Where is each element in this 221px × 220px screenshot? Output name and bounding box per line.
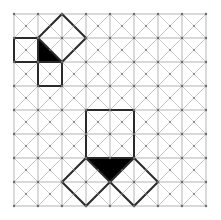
- cell-center-dot: [49, 97, 51, 99]
- grid-vertex-dot: [13, 181, 15, 183]
- cell-center-dot: [25, 73, 27, 75]
- grid-vertex-dot: [133, 205, 135, 207]
- grid-vertex-dot: [157, 181, 159, 183]
- grid-vertex-dot: [157, 157, 159, 159]
- grid-vertex-dot: [133, 85, 135, 87]
- cell-center-dot: [121, 97, 123, 99]
- grid-vertex-dot: [181, 181, 183, 183]
- cell-center-dot: [73, 73, 75, 75]
- cell-center-dot: [25, 193, 27, 195]
- cell-center-dot: [121, 121, 123, 123]
- cell-center-dot: [49, 73, 51, 75]
- grid-vertex-dot: [109, 181, 111, 183]
- cell-center-dot: [121, 193, 123, 195]
- cell-center-dot: [121, 73, 123, 75]
- cell-center-dot: [145, 169, 147, 171]
- grid-vertex-dot: [205, 109, 207, 111]
- grid-vertex-dot: [61, 13, 63, 15]
- cell-center-dot: [49, 169, 51, 171]
- cell-center-dot: [49, 145, 51, 147]
- grid-diagram: [0, 0, 221, 220]
- grid-vertex-dot: [61, 109, 63, 111]
- grid-vertex-dot: [205, 61, 207, 63]
- cell-center-dot: [73, 121, 75, 123]
- cell-center-dot: [97, 169, 99, 171]
- grid-vertex-dot: [109, 157, 111, 159]
- grid-vertex-dot: [181, 157, 183, 159]
- grid-vertex-dot: [133, 13, 135, 15]
- grid-vertex-dot: [85, 205, 87, 207]
- grid-vertex-dot: [85, 157, 87, 159]
- grid-vertex-dot: [85, 61, 87, 63]
- grid-vertex-dot: [181, 133, 183, 135]
- cell-center-dot: [73, 97, 75, 99]
- grid-vertex-dot: [109, 109, 111, 111]
- cell-center-dot: [121, 145, 123, 147]
- cell-center-dot: [169, 169, 171, 171]
- grid-vertex-dot: [37, 109, 39, 111]
- cell-center-dot: [73, 169, 75, 171]
- cell-center-dot: [169, 25, 171, 27]
- cell-center-dot: [49, 193, 51, 195]
- cell-center-dot: [193, 49, 195, 51]
- grid-vertex-dot: [37, 205, 39, 207]
- grid-vertex-dot: [181, 109, 183, 111]
- cell-center-dot: [193, 25, 195, 27]
- grid-vertex-dot: [61, 181, 63, 183]
- grid-vertex-dot: [133, 37, 135, 39]
- grid-vertex-dot: [13, 13, 15, 15]
- grid-vertex-dot: [13, 157, 15, 159]
- cell-center-dot: [193, 145, 195, 147]
- cell-center-dot: [169, 121, 171, 123]
- grid-vertex-dot: [157, 133, 159, 135]
- cell-center-dot: [145, 145, 147, 147]
- cell-center-dot: [97, 121, 99, 123]
- grid-vertex-dot: [205, 181, 207, 183]
- grid-vertex-dot: [37, 37, 39, 39]
- grid-vertex-dot: [61, 157, 63, 159]
- grid-vertex-dot: [157, 109, 159, 111]
- cell-center-dot: [169, 49, 171, 51]
- grid-vertex-dot: [109, 37, 111, 39]
- cell-center-dot: [73, 49, 75, 51]
- grid-vertex-dot: [85, 181, 87, 183]
- grid-vertex-dot: [85, 85, 87, 87]
- grid-vertex-dot: [109, 13, 111, 15]
- grid-vertex-dot: [205, 205, 207, 207]
- cell-center-dot: [25, 49, 27, 51]
- cell-center-dot: [49, 25, 51, 27]
- grid-vertex-dot: [181, 85, 183, 87]
- cell-center-dot: [121, 169, 123, 171]
- cell-center-dot: [169, 97, 171, 99]
- grid-vertex-dot: [37, 181, 39, 183]
- grid-vertex-dot: [13, 109, 15, 111]
- grid-vertex-dot: [157, 85, 159, 87]
- cell-center-dot: [145, 97, 147, 99]
- cell-center-dot: [121, 25, 123, 27]
- grid-vertex-dot: [37, 61, 39, 63]
- cell-center-dot: [97, 193, 99, 195]
- grid-vertex-dot: [109, 133, 111, 135]
- grid-vertex-dot: [37, 13, 39, 15]
- grid-vertex-dot: [13, 37, 15, 39]
- bottom-black-triangle: [86, 158, 134, 182]
- cell-center-dot: [145, 121, 147, 123]
- cell-center-dot: [25, 97, 27, 99]
- cell-center-dot: [73, 25, 75, 27]
- cell-center-dot: [25, 169, 27, 171]
- cell-center-dot: [193, 193, 195, 195]
- cell-center-dot: [193, 73, 195, 75]
- grid-vertex-dot: [205, 157, 207, 159]
- grid-vertex-dot: [157, 13, 159, 15]
- grid-vertex-dot: [109, 61, 111, 63]
- grid-vertex-dot: [181, 13, 183, 15]
- grid-vertex-dot: [37, 85, 39, 87]
- grid-vertex-dot: [37, 133, 39, 135]
- cell-center-dot: [73, 193, 75, 195]
- grid-vertex-dot: [13, 205, 15, 207]
- grid-vertex-dot: [157, 205, 159, 207]
- grid-vertex-dot: [133, 61, 135, 63]
- grid-vertex-dot: [85, 133, 87, 135]
- cell-center-dot: [25, 121, 27, 123]
- grid-vertex-dot: [205, 85, 207, 87]
